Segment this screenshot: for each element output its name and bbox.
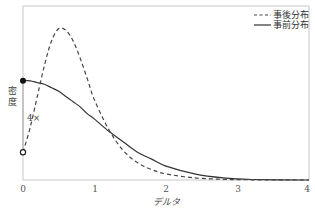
prior-curve: [23, 81, 309, 180]
x-tick-1: 1: [92, 184, 98, 194]
legend-posterior-label: 事後分布: [273, 9, 309, 20]
plot-frame: [23, 6, 309, 180]
x-tick-2: 2: [163, 184, 169, 194]
x-axis-label: デルタ: [153, 197, 181, 207]
y-axis-label-line1: 密: [8, 85, 17, 96]
x-tick-3: 3: [235, 184, 241, 194]
prior-point-marker: [20, 78, 26, 84]
bayes-factor-density-chart: 4× 密 度 0 1 2 3 4 デルタ 事後分布 事前分布: [0, 0, 315, 210]
x-tick-4: 4: [304, 184, 310, 194]
posterior-curve: [23, 28, 309, 180]
y-axis-label-line2: 度: [8, 96, 17, 107]
legend-prior-label: 事前分布: [273, 19, 309, 30]
legend: 事後分布 事前分布: [254, 9, 309, 30]
ratio-annotation: 4×: [27, 113, 40, 123]
posterior-point-marker: [20, 150, 25, 155]
x-tick-0: 0: [20, 184, 26, 194]
